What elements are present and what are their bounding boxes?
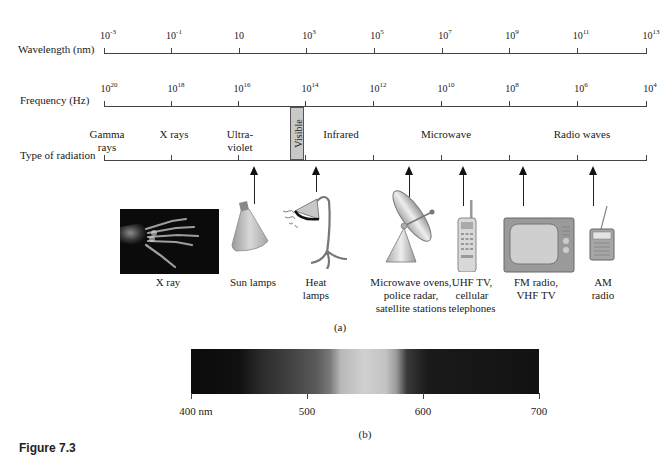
caption-heat-lamps: Heatlamps (303, 276, 329, 302)
television-image (503, 217, 575, 273)
wavelength-tick (646, 48, 647, 54)
radiation-tick (577, 155, 578, 161)
spectrum-tick (423, 393, 424, 399)
radiation-tick (509, 155, 510, 161)
frequency-axis-label: Frequency (Hz) (20, 94, 89, 106)
region-gamma-rays: Gammarays (90, 128, 125, 154)
sun-lamp-image (230, 201, 272, 253)
wavelength-tick-label: 10 (234, 30, 244, 41)
wavelength-tick (104, 48, 105, 54)
wavelength-axis-line (104, 53, 647, 54)
wavelength-axis-label: Wavelength (nm) (18, 43, 94, 55)
frequency-tick (577, 101, 578, 107)
arrow-shaft (593, 174, 594, 206)
cell-phone-icon (455, 200, 479, 272)
radiation-axis-label: Type of radiation (20, 149, 96, 161)
frequency-tick (305, 101, 306, 107)
frequency-tick-label: 1016 (234, 83, 251, 94)
radiation-tick (171, 155, 172, 161)
sun-lamp-icon (230, 201, 272, 253)
radiation-tick (441, 155, 442, 161)
spectrum-tick-label-500: 500 (299, 405, 316, 418)
radiation-tick (238, 155, 239, 161)
wavelength-tick-label: 105 (370, 30, 384, 41)
frequency-axis-line (104, 106, 647, 107)
wavelength-tick-label: 103 (302, 30, 316, 41)
frequency-tick-label: 1014 (302, 83, 319, 94)
portable-radio-icon (588, 205, 618, 261)
radiation-tick (373, 155, 374, 161)
satellite-dish-image (382, 186, 448, 266)
arrow-shaft (316, 174, 317, 192)
heat-lamp-image (281, 193, 351, 269)
frequency-tick (171, 101, 172, 107)
arrow-shaft (523, 174, 524, 206)
cell-phone-image (455, 200, 479, 272)
satellite-dish-icon (382, 186, 448, 266)
wavelength-tick-label: 1013 (643, 30, 660, 41)
wavelength-tick-label: 107 (438, 30, 452, 41)
wavelength-tick (577, 48, 578, 54)
spectrum-tick (307, 393, 308, 399)
caption-fm-radio: FM radio,VHF TV (514, 276, 558, 302)
caption-x-ray: X ray (156, 276, 181, 289)
frequency-tick (646, 101, 647, 107)
figure-label: Figure 7.3 (19, 441, 76, 455)
visible-band-label: Visible (293, 113, 304, 155)
panel-a-label: (a) (334, 321, 346, 334)
frequency-tick (373, 101, 374, 107)
wavelength-tick-label: 10-3 (100, 30, 116, 41)
hand-x-ray-icon (120, 209, 219, 274)
frequency-tick (104, 101, 105, 107)
frequency-tick-label: 108 (505, 83, 519, 94)
visible-spectrum-bar (191, 349, 539, 394)
wavelength-tick (509, 48, 510, 54)
frequency-tick-label: 1018 (168, 83, 185, 94)
caption-sun-lamps: Sun lamps (230, 276, 276, 289)
heat-lamp-icon (281, 193, 351, 269)
arrow-shaft (254, 174, 255, 204)
frequency-tick (238, 101, 239, 107)
wavelength-tick (374, 48, 375, 54)
wavelength-tick (306, 48, 307, 54)
wavelength-tick-label: 109 (505, 30, 519, 41)
radiation-tick (305, 155, 306, 161)
spectrum-tick-label-700: 700 (531, 405, 548, 418)
spectrum-tick (539, 393, 540, 399)
radiation-axis-line (104, 160, 647, 161)
region-radio-waves: Radio waves (554, 128, 611, 141)
wavelength-tick (442, 48, 443, 54)
caption-am-radio: AMradio (592, 276, 615, 302)
caption-uhf-tv: UHF TV,cellulartelephones (448, 276, 495, 315)
wavelength-tick (239, 48, 240, 54)
wavelength-tick (171, 48, 172, 54)
frequency-tick-label: 104 (643, 83, 657, 94)
caption-microwave: Microwave ovens,police radar,satellite s… (370, 276, 451, 315)
frequency-tick-label: 1010 (438, 83, 455, 94)
region-ultraviolet: Ultra-violet (227, 128, 253, 154)
wavelength-tick-label: 10-1 (166, 30, 182, 41)
wavelength-tick-label: 1011 (573, 30, 590, 41)
region-x-rays: X rays (159, 128, 188, 141)
frequency-tick-label: 1012 (370, 83, 387, 94)
spectrum-tick (191, 393, 192, 399)
frequency-tick (509, 101, 510, 107)
visible-band: Visible (290, 107, 304, 160)
radiation-tick (646, 155, 647, 161)
radiation-tick (104, 155, 105, 161)
am-radio-image (588, 205, 618, 261)
panel-b-label: (b) (359, 428, 372, 441)
region-microwave: Microwave (421, 128, 471, 141)
frequency-tick-label: 1020 (101, 83, 118, 94)
frequency-tick-label: 106 (574, 83, 588, 94)
television-icon (503, 217, 575, 273)
frequency-tick (441, 101, 442, 107)
x-ray-image (120, 209, 219, 274)
spectrum-tick-label-400: 400 nm (179, 405, 212, 418)
spectrum-tick-label-600: 600 (415, 405, 432, 418)
region-infrared: Infrared (323, 128, 358, 141)
